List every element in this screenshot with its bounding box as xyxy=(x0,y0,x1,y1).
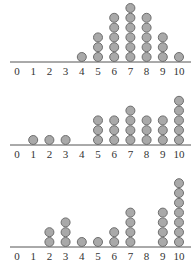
x-tick-label: 0 xyxy=(14,250,20,262)
data-dot xyxy=(110,53,119,62)
data-dot xyxy=(175,53,184,62)
data-dot xyxy=(94,33,103,42)
data-dot xyxy=(175,198,184,207)
x-tick-label: 1 xyxy=(30,65,36,77)
x-tick-label: 6 xyxy=(111,65,117,77)
data-dot xyxy=(175,238,184,247)
data-dot xyxy=(94,116,103,125)
x-tick-label: 6 xyxy=(111,148,117,160)
data-dot xyxy=(158,53,167,62)
data-dot xyxy=(45,238,54,247)
data-dot xyxy=(175,218,184,227)
data-dot xyxy=(126,13,135,22)
data-dot xyxy=(45,228,54,237)
data-dot xyxy=(126,136,135,145)
x-tick-label: 7 xyxy=(128,250,134,262)
x-tick-label: 10 xyxy=(174,148,186,160)
x-tick-label: 4 xyxy=(79,250,85,262)
data-dot xyxy=(126,208,135,217)
data-dot xyxy=(77,53,86,62)
data-dot xyxy=(175,179,184,188)
data-dot xyxy=(175,136,184,145)
x-tick-label: 4 xyxy=(79,148,85,160)
x-tick-label: 6 xyxy=(111,250,117,262)
data-dot xyxy=(175,116,184,125)
data-dot xyxy=(77,238,86,247)
x-tick-label: 0 xyxy=(14,148,20,160)
x-tick-label: 5 xyxy=(95,250,101,262)
data-dot xyxy=(29,136,38,145)
data-dot xyxy=(142,43,151,52)
data-dot xyxy=(110,43,119,52)
data-dot xyxy=(142,13,151,22)
data-dot xyxy=(175,96,184,105)
data-dot xyxy=(158,116,167,125)
x-tick-label: 3 xyxy=(63,250,69,262)
data-dot xyxy=(94,43,103,52)
data-dot xyxy=(126,218,135,227)
data-dot xyxy=(110,238,119,247)
x-tick-label: 9 xyxy=(160,250,166,262)
data-dot xyxy=(61,228,70,237)
x-tick-label: 10 xyxy=(174,250,186,262)
x-tick-label: 3 xyxy=(63,148,69,160)
data-dot xyxy=(142,33,151,42)
data-dot xyxy=(142,53,151,62)
data-dot xyxy=(126,116,135,125)
data-dot xyxy=(110,116,119,125)
dot-plot-3: 012345678910 xyxy=(10,179,191,262)
dot-plot-2: 012345678910 xyxy=(10,96,191,160)
data-dot xyxy=(142,116,151,125)
data-dot xyxy=(126,33,135,42)
data-dot xyxy=(126,238,135,247)
x-tick-label: 8 xyxy=(144,65,150,77)
x-tick-label: 5 xyxy=(95,148,101,160)
data-dot xyxy=(126,126,135,135)
data-dot xyxy=(110,228,119,237)
data-dot xyxy=(45,136,54,145)
data-dot xyxy=(110,23,119,32)
x-tick-label: 2 xyxy=(47,148,53,160)
x-tick-label: 4 xyxy=(79,65,85,77)
data-dot xyxy=(126,228,135,237)
data-dot xyxy=(158,238,167,247)
data-dot xyxy=(158,43,167,52)
data-dot xyxy=(158,208,167,217)
data-dot xyxy=(126,43,135,52)
x-tick-label: 7 xyxy=(128,65,134,77)
dot-plots: 012345678910012345678910012345678910 xyxy=(0,0,194,268)
data-dot xyxy=(142,136,151,145)
x-tick-label: 8 xyxy=(144,148,150,160)
x-tick-label: 2 xyxy=(47,65,53,77)
data-dot xyxy=(142,23,151,32)
data-dot xyxy=(94,136,103,145)
data-dot xyxy=(158,218,167,227)
data-dot xyxy=(158,136,167,145)
data-dot xyxy=(175,228,184,237)
data-dot xyxy=(175,189,184,198)
data-dot xyxy=(94,238,103,247)
data-dot xyxy=(61,218,70,227)
x-tick-label: 10 xyxy=(174,65,186,77)
x-tick-label: 5 xyxy=(95,65,101,77)
data-dot xyxy=(110,126,119,135)
data-dot xyxy=(61,136,70,145)
data-dot xyxy=(110,33,119,42)
data-dot xyxy=(94,126,103,135)
data-dot xyxy=(158,33,167,42)
data-dot xyxy=(126,106,135,115)
data-dot xyxy=(175,208,184,217)
data-dot xyxy=(61,238,70,247)
x-tick-label: 8 xyxy=(144,250,150,262)
data-dot xyxy=(94,53,103,62)
data-dot xyxy=(110,13,119,22)
data-dot xyxy=(158,126,167,135)
data-dot xyxy=(142,126,151,135)
x-tick-label: 9 xyxy=(160,65,166,77)
data-dot xyxy=(175,106,184,115)
data-dot xyxy=(126,23,135,32)
data-dot xyxy=(175,126,184,135)
x-tick-label: 7 xyxy=(128,148,134,160)
x-tick-label: 1 xyxy=(30,250,36,262)
x-tick-label: 9 xyxy=(160,148,166,160)
